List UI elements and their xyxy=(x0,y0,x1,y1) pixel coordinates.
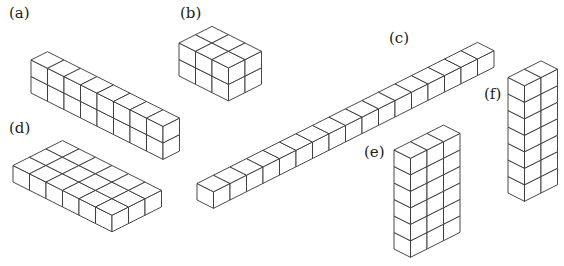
cube-group-a xyxy=(31,52,180,160)
label-c: (c) xyxy=(389,31,409,46)
label-b: (b) xyxy=(180,6,201,21)
cube-group-b xyxy=(179,26,262,101)
cube-group-e xyxy=(394,125,460,257)
cube-arrangements-diagram xyxy=(0,0,564,266)
label-e: (e) xyxy=(364,145,385,160)
cube-group-f xyxy=(508,61,558,201)
cube-group-d xyxy=(13,141,162,232)
label-f: (f) xyxy=(484,87,501,102)
label-a: (a) xyxy=(9,6,30,21)
label-d: (d) xyxy=(9,121,30,136)
